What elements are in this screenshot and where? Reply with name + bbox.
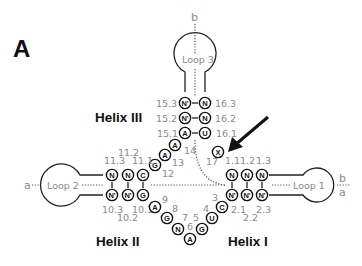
nucleotide-1-1: N xyxy=(226,169,237,180)
loop-2-end-a: a xyxy=(24,179,31,192)
position-label: 1.2 xyxy=(240,155,255,166)
position-label: 14 xyxy=(184,145,196,156)
svg-text:N': N' xyxy=(124,191,131,200)
svg-text:A: A xyxy=(152,203,158,212)
nucleotide-15-3: N' xyxy=(179,97,190,108)
helix-1: N N N N' N' N' 1.1 1.2 1.3 2.1 2.2 2.3 xyxy=(225,155,271,223)
helix-3-label: Helix III xyxy=(95,110,142,125)
position-label: 11.1 xyxy=(132,155,153,166)
svg-text:N: N xyxy=(175,225,180,234)
loop-1: Loop 1 b a xyxy=(269,168,350,202)
svg-text:G: G xyxy=(140,191,146,200)
svg-text:N': N' xyxy=(243,191,250,200)
nucleotide-15-1: A xyxy=(179,127,190,138)
nucleotide-11-1: C xyxy=(137,169,148,180)
position-label: 15.3 xyxy=(156,98,177,109)
loop-2: a Loop 2 xyxy=(24,164,103,206)
position-label: 15.1 xyxy=(157,128,178,139)
nucleotide-10-2: N' xyxy=(122,189,133,200)
svg-text:N: N xyxy=(109,171,114,180)
svg-text:G: G xyxy=(199,225,205,234)
nucleotide-13: A xyxy=(159,149,170,160)
position-label: 17 xyxy=(206,156,218,167)
helix-3: N' N N' N A U 15.3 16.3 15.2 16.2 15.1 1… xyxy=(156,97,237,139)
nucleotide-4: U xyxy=(206,212,217,223)
svg-text:N': N' xyxy=(108,191,115,200)
nucleotide-11-2: N xyxy=(122,169,133,180)
position-label: 1.1 xyxy=(225,155,240,166)
position-label: 8 xyxy=(172,203,178,214)
svg-text:G: G xyxy=(164,214,170,223)
loop-1-end-b: b xyxy=(339,172,346,185)
nucleotide-10-3: N' xyxy=(106,189,117,200)
position-label: 16.2 xyxy=(215,113,236,124)
nucleotide-1-3: N xyxy=(256,169,267,180)
svg-text:C: C xyxy=(219,203,225,212)
position-label: 5 xyxy=(193,212,199,223)
nucleotide-8: G xyxy=(161,212,172,223)
position-label: 3 xyxy=(212,192,218,203)
svg-text:N': N' xyxy=(258,191,265,200)
svg-text:N': N' xyxy=(228,191,235,200)
position-label: 4 xyxy=(203,203,209,214)
position-label: 16.3 xyxy=(215,98,236,109)
svg-text:N: N xyxy=(202,99,207,108)
position-label: 2.3 xyxy=(256,204,271,215)
nucleotide-16-2: N xyxy=(199,112,210,123)
hammerhead-ribozyme-diagram: A b Loop 3 Helix III N' N N' N A U 15.3 … xyxy=(0,0,362,266)
svg-text:N: N xyxy=(229,171,234,180)
nucleotide-5: G xyxy=(196,223,207,234)
svg-text:A: A xyxy=(187,235,193,244)
panel-label: A xyxy=(13,35,30,62)
nucleotide-2-1: N' xyxy=(226,189,237,200)
nucleotide-3: C xyxy=(216,201,227,212)
position-label: 13 xyxy=(172,157,184,168)
loop-1-label: Loop 1 xyxy=(293,180,325,191)
nucleotide-6: A xyxy=(184,233,195,244)
svg-text:N': N' xyxy=(181,114,188,123)
nucleotide-1-2: N xyxy=(241,169,252,180)
nucleotide-2-3: N' xyxy=(256,189,267,200)
svg-text:N': N' xyxy=(181,99,188,108)
helix-2-label: Helix II xyxy=(96,234,140,249)
nucleotide-10-1: G xyxy=(137,189,148,200)
nucleotide-16-1: U xyxy=(199,127,210,138)
nucleotide-9: A xyxy=(149,201,160,212)
svg-text:A: A xyxy=(182,129,188,138)
loop-2-label: Loop 2 xyxy=(47,180,79,191)
position-label: 15.2 xyxy=(156,113,177,124)
position-label: 12 xyxy=(162,168,174,179)
position-label: 16.1 xyxy=(216,128,237,139)
loop-3-end-b: b xyxy=(191,11,198,24)
nucleotide-2-2: N' xyxy=(241,189,252,200)
nucleotide-15-2: N' xyxy=(179,112,190,123)
svg-text:N: N xyxy=(259,171,264,180)
nucleotide-14: A xyxy=(169,139,180,150)
loop-3: b Loop 3 xyxy=(174,11,216,97)
nucleotide-7: N xyxy=(172,223,183,234)
position-label: 1.3 xyxy=(256,155,271,166)
svg-text:A: A xyxy=(162,151,168,160)
svg-text:U: U xyxy=(209,214,214,223)
helix-1-label: Helix I xyxy=(228,234,268,249)
svg-text:N: N xyxy=(244,171,249,180)
position-label: 9 xyxy=(162,194,168,205)
svg-text:U: U xyxy=(202,129,207,138)
svg-text:A: A xyxy=(172,141,178,150)
svg-text:N: N xyxy=(202,114,207,123)
nucleotide-11-3: N xyxy=(106,169,117,180)
svg-text:C: C xyxy=(140,171,146,180)
loop-1-end-a: a xyxy=(339,186,346,199)
svg-text:N: N xyxy=(125,171,130,180)
loop-3-label: Loop 3 xyxy=(182,54,214,65)
nucleotide-16-3: N xyxy=(199,97,210,108)
